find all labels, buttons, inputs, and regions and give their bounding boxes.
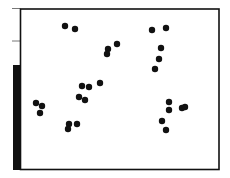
plot-frame	[21, 9, 220, 170]
data-point	[163, 25, 169, 31]
y-axis-ticks	[12, 9, 21, 42]
data-point	[166, 107, 172, 113]
data-point	[182, 104, 188, 110]
data-point	[65, 126, 71, 132]
data-point	[166, 99, 172, 105]
data-point	[62, 23, 68, 29]
data-point	[163, 127, 169, 133]
data-point	[159, 118, 165, 124]
data-point	[37, 110, 43, 116]
data-point	[97, 80, 103, 86]
data-point	[114, 41, 120, 47]
data-point	[82, 97, 88, 103]
data-point	[149, 27, 155, 33]
data-point	[33, 100, 39, 106]
scatter-plot	[0, 0, 230, 178]
data-point	[104, 51, 110, 57]
data-point	[86, 84, 92, 90]
data-point	[152, 66, 158, 72]
data-point	[76, 94, 82, 100]
data-point	[74, 121, 80, 127]
data-point	[79, 83, 85, 89]
data-point	[72, 26, 78, 32]
data-point	[156, 56, 162, 62]
data-point	[158, 45, 164, 51]
data-points	[33, 23, 188, 133]
data-point	[39, 103, 45, 109]
